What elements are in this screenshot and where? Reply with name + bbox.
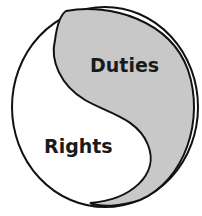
duties-label: Duties [90, 54, 159, 76]
rights-label: Rights [44, 135, 113, 157]
rights-duties-diagram: Duties Rights [0, 0, 202, 216]
